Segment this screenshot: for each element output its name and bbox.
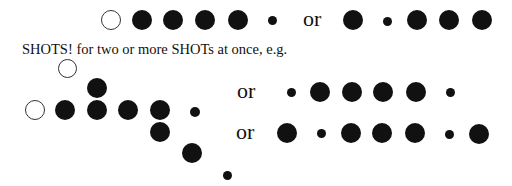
filled-circle-icon	[150, 100, 170, 120]
filled-circle-icon	[150, 122, 170, 142]
filled-circle-icon	[407, 10, 427, 30]
filled-circle-icon	[55, 100, 75, 120]
small-dot-icon	[287, 88, 296, 97]
filled-circle-icon	[182, 143, 202, 163]
filled-circle-icon	[163, 10, 183, 30]
filled-circle-icon	[405, 123, 425, 143]
filled-circle-icon	[87, 78, 107, 98]
small-dot-icon	[190, 107, 200, 117]
or-label-middle: or	[237, 80, 255, 102]
open-circle-icon	[101, 10, 121, 30]
filled-circle-icon	[341, 123, 361, 143]
filled-circle-icon	[87, 100, 107, 120]
filled-circle-icon	[195, 10, 215, 30]
open-circle-icon	[58, 59, 77, 78]
filled-circle-icon	[228, 10, 248, 30]
open-circle-icon	[25, 100, 45, 120]
filled-circle-icon	[469, 124, 489, 144]
or-label-top: or	[303, 8, 321, 30]
filled-circle-icon	[277, 123, 297, 143]
small-dot-icon	[446, 88, 455, 97]
filled-circle-icon	[343, 10, 363, 30]
or-label-bottom: or	[236, 121, 254, 143]
filled-circle-icon	[118, 100, 138, 120]
filled-circle-icon	[439, 10, 459, 30]
small-dot-icon	[268, 16, 277, 25]
filled-circle-icon	[310, 82, 330, 102]
filled-circle-icon	[406, 82, 426, 102]
caption-text: SHOTS! for two or more SHOTs at once, e.…	[22, 41, 287, 57]
filled-circle-icon	[472, 10, 492, 30]
filled-circle-icon	[132, 10, 152, 30]
small-dot-icon	[383, 17, 392, 26]
filled-circle-icon	[372, 123, 392, 143]
filled-circle-icon	[373, 82, 393, 102]
small-dot-icon	[445, 130, 454, 139]
small-dot-icon	[317, 129, 326, 138]
small-dot-icon	[223, 171, 232, 180]
filled-circle-icon	[342, 82, 362, 102]
